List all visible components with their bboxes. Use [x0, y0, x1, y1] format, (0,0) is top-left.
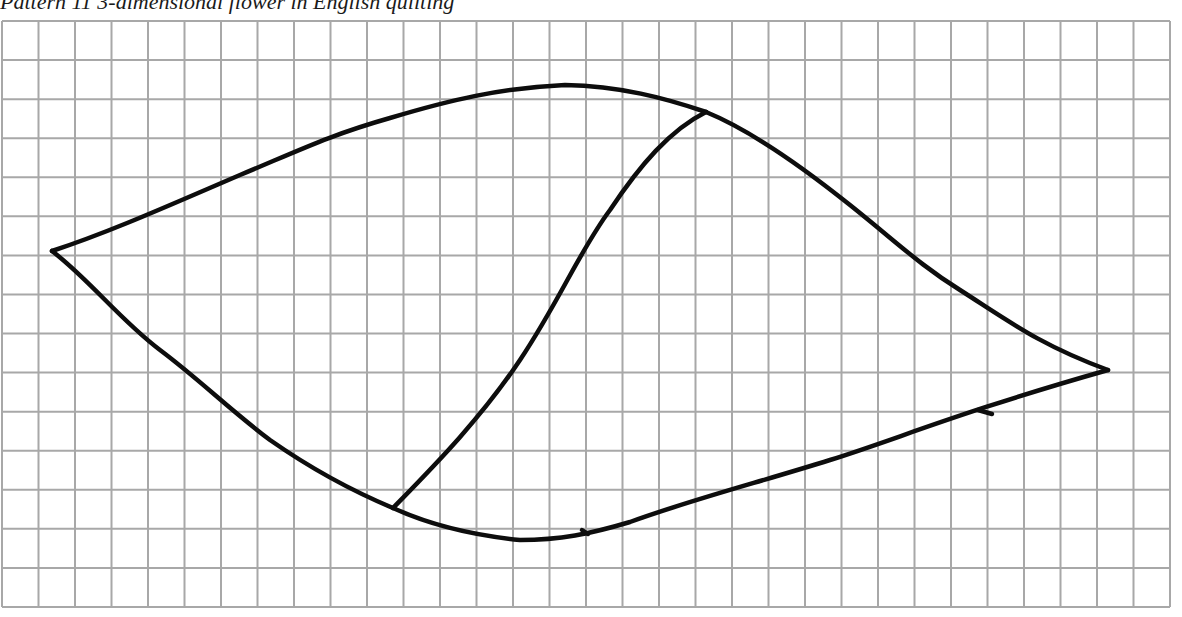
flower-pattern-outline — [52, 85, 1108, 540]
upper-left-curve — [52, 85, 706, 251]
lower-right-tick-mark — [978, 410, 992, 414]
quilting-pattern-figure — [0, 0, 1182, 617]
lower-right-curve — [393, 370, 1108, 540]
upper-right-curve — [706, 112, 1108, 370]
lower-left-curve — [52, 251, 393, 508]
